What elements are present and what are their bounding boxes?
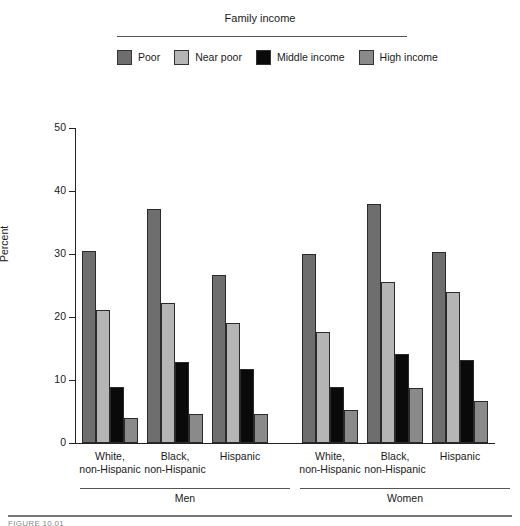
legend-item-label: Poor (138, 51, 160, 63)
y-axis-label: Percent (0, 226, 10, 262)
y-tick-label: 20 (26, 310, 66, 322)
y-tick-label: 30 (26, 247, 66, 259)
bar (316, 332, 330, 443)
bar (446, 292, 460, 443)
legend-item-label: High income (380, 51, 438, 63)
legend-item: Near poor (174, 50, 242, 65)
legend-item: High income (359, 50, 438, 65)
bar (344, 410, 358, 443)
bar (432, 252, 446, 443)
y-tick-mark (69, 443, 75, 444)
bar (110, 387, 124, 443)
bar-group (82, 128, 138, 443)
bar (302, 254, 316, 443)
x-category-line2: non-Hispanic (130, 463, 220, 476)
figure-caption: FIGURE 10.01 (8, 519, 64, 526)
bar (474, 401, 488, 443)
x-axis-line (75, 443, 495, 444)
y-tick-label: 0 (26, 436, 66, 448)
bars-layer (75, 128, 495, 443)
bar (381, 282, 395, 443)
legend-divider (117, 36, 407, 37)
legend-title: Family income (0, 12, 520, 24)
legend-swatch-icon (256, 50, 271, 65)
bar (189, 414, 203, 443)
sex-group-rule (300, 488, 510, 489)
bar-group (367, 128, 423, 443)
legend: PoorNear poorMiddle incomeHigh income (117, 48, 417, 66)
bottom-divider (8, 515, 512, 517)
legend-item-label: Near poor (195, 51, 242, 63)
bar (395, 354, 409, 443)
y-tick-label: 40 (26, 184, 66, 196)
x-category-label: Hispanic (415, 450, 505, 463)
legend-swatch-icon (117, 50, 132, 65)
bar (147, 209, 161, 443)
bar-group (302, 128, 358, 443)
bar-group (147, 128, 203, 443)
x-category-line1: Hispanic (415, 450, 505, 463)
bar (240, 369, 254, 443)
bar (82, 251, 96, 443)
bar (409, 388, 423, 443)
legend-swatch-icon (174, 50, 189, 65)
sex-group-label: Women (345, 492, 465, 504)
sex-group-rule (80, 488, 290, 489)
x-category-line2: non-Hispanic (350, 463, 440, 476)
bar (124, 418, 138, 443)
y-tick-label: 50 (26, 121, 66, 133)
legend-item: Poor (117, 50, 160, 65)
legend-swatch-icon (359, 50, 374, 65)
bar-group (212, 128, 268, 443)
y-tick-label: 10 (26, 373, 66, 385)
legend-item: Middle income (256, 50, 345, 65)
bar (330, 387, 344, 443)
sex-group-label: Men (125, 492, 245, 504)
bar-group (432, 128, 488, 443)
x-category-line1: Hispanic (195, 450, 285, 463)
x-category-label: Hispanic (195, 450, 285, 463)
bar (161, 303, 175, 443)
bar (254, 414, 268, 443)
bar (175, 362, 189, 443)
bar (226, 323, 240, 443)
bar (96, 310, 110, 443)
figure-root: Family income PoorNear poorMiddle income… (0, 0, 520, 526)
legend-item-label: Middle income (277, 51, 345, 63)
bar (212, 275, 226, 443)
bar (460, 360, 474, 443)
bar (367, 204, 381, 443)
